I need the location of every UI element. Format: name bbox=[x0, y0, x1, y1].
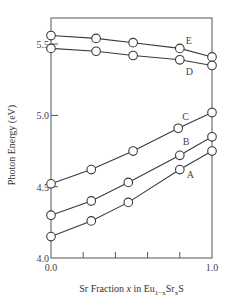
data-point-E bbox=[208, 53, 217, 62]
x-tick-label: 0.0 bbox=[45, 262, 58, 273]
data-point-B bbox=[176, 151, 185, 160]
series-label-B: B bbox=[183, 136, 190, 147]
series-label-D: D bbox=[186, 66, 193, 77]
data-point-C bbox=[208, 108, 217, 117]
data-point-E bbox=[92, 34, 101, 43]
xlabel-post: S bbox=[178, 283, 184, 294]
data-point-C bbox=[87, 165, 96, 174]
y-axis-label-text: Photon Energy (eV) bbox=[6, 105, 17, 185]
data-point-E bbox=[129, 38, 138, 47]
data-point-A bbox=[87, 217, 96, 226]
data-point-B bbox=[124, 178, 133, 187]
series-label-E: E bbox=[186, 35, 192, 46]
data-point-C bbox=[129, 147, 138, 156]
chart: 4.04.55.05.50.01.0EDCBA bbox=[0, 0, 230, 305]
data-point-D bbox=[208, 61, 217, 70]
data-point-A bbox=[47, 232, 56, 241]
data-point-C bbox=[47, 180, 56, 189]
series-label-A: A bbox=[187, 169, 195, 180]
series-line-A bbox=[51, 151, 212, 237]
y-tick-label: 5.0 bbox=[37, 110, 50, 121]
data-point-D bbox=[47, 44, 56, 53]
data-point-E bbox=[47, 31, 56, 40]
xlabel-pre: Sr Fraction bbox=[79, 283, 126, 294]
data-point-A bbox=[176, 165, 185, 174]
data-point-D bbox=[92, 47, 101, 56]
y-axis-label: Photon Energy (eV) bbox=[4, 80, 18, 210]
data-point-B bbox=[47, 211, 56, 220]
data-point-C bbox=[174, 124, 183, 133]
data-point-B bbox=[208, 132, 217, 141]
x-tick-label: 1.0 bbox=[206, 262, 219, 273]
x-axis-label: Sr Fraction x in Eu1−xSrxS bbox=[51, 283, 212, 297]
xlabel-mid: in Eu bbox=[131, 283, 155, 294]
xlabel-sub1: 1−x bbox=[155, 289, 166, 297]
data-point-D bbox=[176, 55, 185, 64]
data-point-A bbox=[124, 198, 133, 207]
data-point-A bbox=[208, 147, 217, 156]
data-point-D bbox=[129, 51, 138, 60]
data-point-E bbox=[176, 44, 185, 53]
data-point-B bbox=[87, 197, 96, 206]
xlabel-mid2: Sr bbox=[166, 283, 175, 294]
series-label-C: C bbox=[182, 111, 189, 122]
